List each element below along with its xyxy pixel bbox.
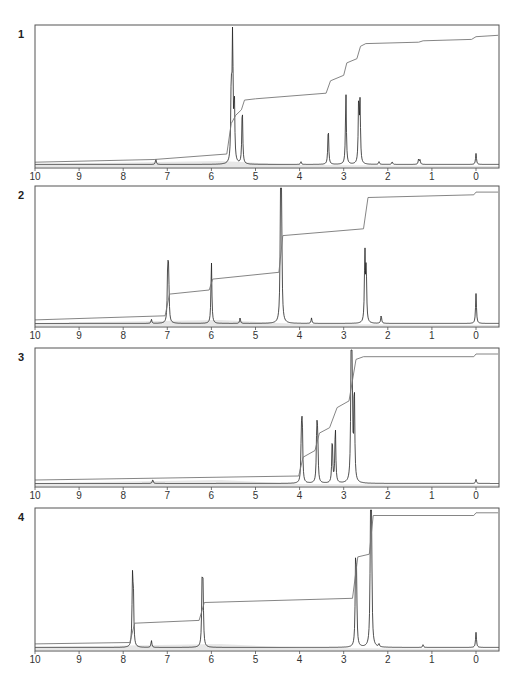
integral-trace — [35, 192, 498, 320]
plot-frame — [35, 186, 499, 327]
x-tick-label: 6 — [209, 171, 215, 182]
plot-frame — [35, 508, 499, 651]
x-tick-label: 10 — [29, 330, 41, 341]
plot-frame — [35, 25, 499, 168]
spectrum-panel-1: 1 109876543210 — [18, 25, 499, 182]
x-tick-label: 3 — [341, 654, 347, 665]
x-tick-label: 6 — [209, 330, 215, 341]
x-tick-label: 1 — [429, 330, 435, 341]
spectrum-panel-3: 3 109876543210 — [18, 348, 499, 501]
x-tick-label: 3 — [341, 490, 347, 501]
x-tick-label: 1 — [429, 654, 435, 665]
spectrum-trace — [35, 350, 499, 484]
x-tick-label: 8 — [120, 171, 126, 182]
x-tick-label: 4 — [297, 171, 303, 182]
integral-trace — [35, 513, 498, 644]
x-tick-label: 4 — [297, 490, 303, 501]
x-tick-label: 8 — [120, 330, 126, 341]
spectrum-trace — [35, 27, 499, 164]
spectrum-trace — [35, 188, 499, 324]
spectrum-panel-2: 2 109876543210 — [18, 186, 499, 341]
panel-label: 1 — [18, 28, 24, 40]
x-tick-label: 0 — [473, 330, 479, 341]
x-tick-label: 5 — [253, 490, 259, 501]
x-tick-label: 8 — [120, 654, 126, 665]
x-tick-label: 0 — [473, 171, 479, 182]
x-tick-label: 2 — [385, 330, 391, 341]
x-tick-label: 9 — [76, 330, 82, 341]
x-tick-label: 6 — [209, 654, 215, 665]
x-tick-label: 2 — [385, 171, 391, 182]
x-tick-label: 10 — [29, 490, 41, 501]
x-tick-label: 3 — [341, 330, 347, 341]
x-tick-label: 2 — [385, 654, 391, 665]
spectrum-trace — [35, 510, 499, 647]
panel-label: 4 — [18, 511, 25, 523]
x-tick-label: 7 — [165, 490, 171, 501]
x-tick-label: 7 — [165, 654, 171, 665]
x-tick-label: 0 — [473, 654, 479, 665]
spectrum-panel-4: 4 109876543210 — [18, 508, 499, 665]
x-tick-label: 5 — [253, 171, 259, 182]
integral-trace — [35, 35, 498, 162]
x-tick-label: 4 — [297, 654, 303, 665]
x-tick-label: 8 — [120, 490, 126, 501]
x-tick-label: 9 — [76, 490, 82, 501]
panel-label: 3 — [18, 351, 24, 363]
x-tick-label: 4 — [297, 330, 303, 341]
x-tick-label: 9 — [76, 171, 82, 182]
x-tick-label: 9 — [76, 654, 82, 665]
x-tick-label: 5 — [253, 330, 259, 341]
x-tick-label: 3 — [341, 171, 347, 182]
x-tick-label: 6 — [209, 490, 215, 501]
x-tick-label: 10 — [29, 654, 41, 665]
nmr-spectra-figure: 1 109876543210 2 109876543210 3 10987654… — [0, 0, 523, 673]
x-tick-label: 10 — [29, 171, 41, 182]
panel-label: 2 — [18, 189, 24, 201]
x-tick-label: 0 — [473, 490, 479, 501]
integral-trace — [35, 354, 498, 480]
plot-frame — [35, 348, 499, 487]
x-tick-label: 1 — [429, 490, 435, 501]
x-tick-label: 5 — [253, 654, 259, 665]
x-tick-label: 1 — [429, 171, 435, 182]
x-tick-label: 7 — [165, 171, 171, 182]
x-tick-label: 2 — [385, 490, 391, 501]
x-tick-label: 7 — [165, 330, 171, 341]
